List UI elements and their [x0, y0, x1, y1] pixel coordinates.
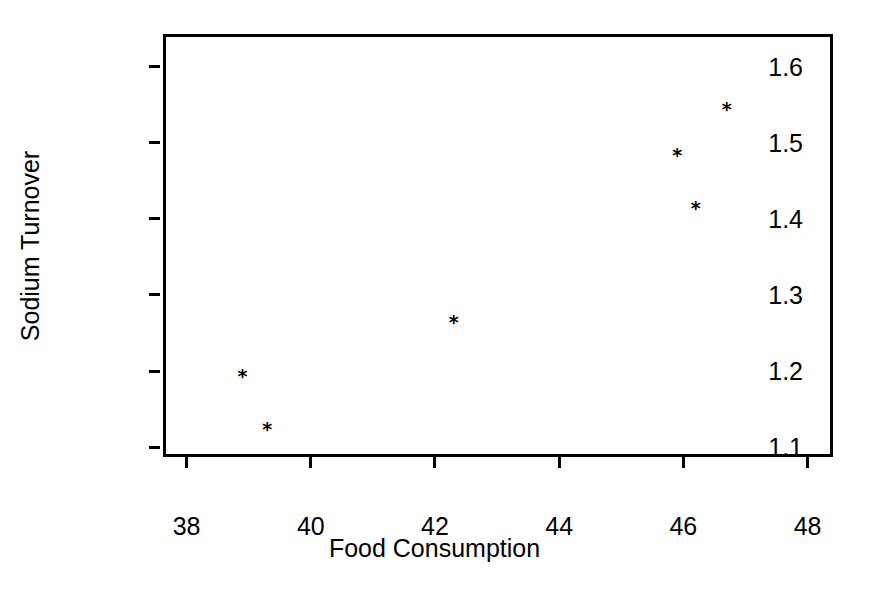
x-tick-mark	[433, 457, 436, 468]
y-tick-mark	[149, 293, 160, 296]
y-axis-title-container: Sodium Turnover	[0, 0, 60, 599]
x-tick-mark	[309, 457, 312, 468]
x-tick-mark	[558, 457, 561, 468]
scatter-plot-figure: Sodium Turnover 1.11.21.31.41.51.6 38404…	[0, 0, 869, 599]
x-tick-mark	[806, 457, 809, 468]
y-tick-mark	[149, 446, 160, 449]
x-tick-mark	[682, 457, 685, 468]
x-axis-title: Food Consumption	[0, 534, 869, 563]
y-tick-mark	[149, 217, 160, 220]
y-axis-title: Sodium Turnover	[16, 151, 45, 341]
y-tick-mark	[149, 370, 160, 373]
x-tick-mark	[185, 457, 188, 468]
y-tick-mark	[149, 141, 160, 144]
y-tick-mark	[149, 65, 160, 68]
plot-frame-box	[163, 34, 833, 457]
